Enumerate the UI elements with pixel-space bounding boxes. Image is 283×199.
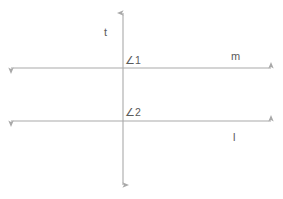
angle-label-1: ∠1 <box>125 55 141 66</box>
angle-label-2: ∠2 <box>125 107 141 118</box>
diagram-canvas: t ∠1 m ∠2 l <box>0 0 283 199</box>
line-label-m: m <box>231 51 240 62</box>
line-label-l: l <box>233 132 235 143</box>
line-label-t: t <box>104 27 107 38</box>
geometry-diagram <box>0 0 283 199</box>
